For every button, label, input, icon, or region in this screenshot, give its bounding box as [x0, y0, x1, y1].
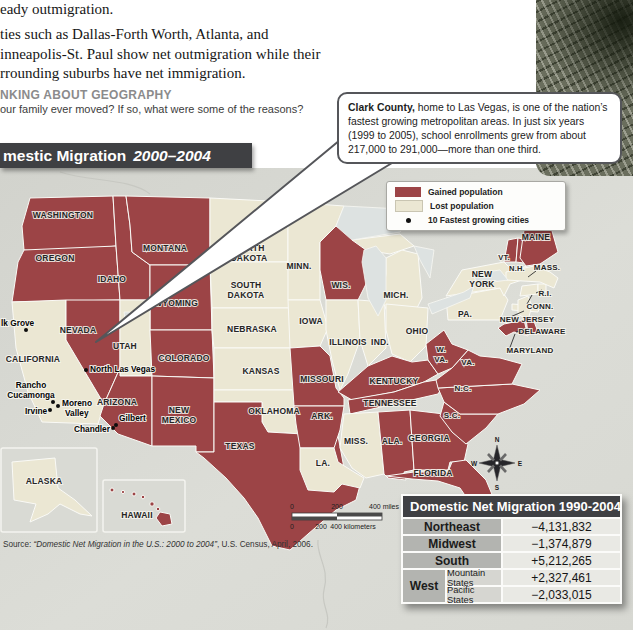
label-MI: MICH.	[383, 290, 408, 300]
lost-swatch	[395, 200, 423, 212]
city-label-chandler: Chandler	[74, 424, 111, 434]
label-TX: TEXAS	[225, 441, 254, 451]
hawaii-inset-box	[103, 480, 185, 532]
table-value-mountain-states: +2,327,461	[503, 570, 620, 585]
label-HI: HAWAII	[121, 510, 152, 520]
state-WA	[22, 196, 116, 252]
state-NC	[438, 384, 540, 414]
label-ME: MAINE	[522, 232, 551, 242]
state-MT	[126, 196, 210, 265]
table-region-south: South	[403, 553, 501, 568]
label-WI: WIS.	[331, 280, 350, 290]
label-NV: NEVADA	[60, 325, 96, 335]
legend-cities-label: 10 Fastest growing cities	[428, 215, 529, 225]
legend-lost-label: Lost population	[430, 201, 494, 211]
legend-cities-row: 10 Fastest growing cities	[395, 215, 557, 225]
label-AL: ALA.	[382, 436, 403, 446]
map-title: mestic Migration	[3, 147, 126, 164]
label-OK: OKLAHOMA	[248, 406, 300, 416]
label-MO: MISSOURI	[300, 374, 344, 384]
label-OH: OHIO	[406, 326, 429, 336]
state-HI	[132, 492, 136, 496]
city-label-north-las-vegas: North Las Vegas	[90, 364, 155, 374]
state-HI	[141, 495, 145, 499]
river-line	[318, 540, 328, 628]
table-value-midwest: −1,374,879	[503, 536, 620, 551]
compass-letter-n: N	[495, 436, 500, 443]
scale-km-label: 0	[290, 523, 294, 530]
label-IA: IOWA	[299, 316, 322, 326]
label-SC: S.C.	[444, 411, 460, 420]
city-dot-chandler	[111, 426, 115, 430]
city-dot-north-las-vegas	[84, 368, 88, 372]
state-IN	[358, 300, 386, 366]
table-sub-pacific-states: Pacific States	[447, 587, 501, 602]
label-GA: GEORGIA	[408, 433, 450, 443]
table-value-south: +5,212,265	[503, 553, 620, 568]
compass-letter-e: E	[518, 460, 523, 467]
city-label-moreno-valley: Valley	[65, 408, 89, 418]
net-migration-table: Domestic Net Migration 1990-2004 Northea…	[401, 494, 622, 604]
map-legend: Gained population Lost population 10 Fas…	[386, 181, 566, 231]
label-VA: VA.	[461, 358, 474, 367]
label-NC: N.C.	[455, 384, 472, 393]
city-dot-elk-grove	[24, 328, 28, 332]
source-title: “Domestic Net Migration in the U.S.: 200…	[34, 540, 217, 549]
label-ID: IDAHO	[98, 274, 127, 284]
label-UT: UTAH	[113, 341, 137, 351]
table-title: Domestic Net Migration 1990-2004	[403, 496, 620, 517]
label-WV: W.	[436, 345, 446, 354]
label-MN: MINN.	[286, 261, 311, 271]
label-PA: PA.	[458, 309, 472, 319]
table-region-northeast: Northeast	[403, 519, 501, 534]
label-NJ: NEW JERSEY	[500, 315, 555, 324]
city-dot-rancho-cucamonga	[51, 400, 55, 404]
table-region-midwest: Midwest	[403, 536, 501, 551]
city-label-gilbert: Gilbert	[119, 413, 146, 423]
gained-swatch	[395, 187, 421, 197]
source-prefix: Source:	[3, 540, 34, 549]
city-dot-gilbert	[114, 423, 118, 427]
label-AR: ARK.	[311, 411, 333, 421]
map-title-years: 2000–2004	[133, 147, 211, 164]
label-SD: DAKOTA	[228, 290, 265, 300]
label-NM: MEXICO	[162, 415, 197, 425]
table-body: Northeast−4,131,832Midwest−1,374,879Sout…	[403, 517, 620, 602]
state-HI	[121, 490, 124, 493]
label-SD: SOUTH	[231, 280, 262, 290]
label-MS: MISS.	[344, 436, 368, 446]
scale-miles-label: 400 miles	[369, 503, 399, 510]
label-OR: OREGON	[36, 253, 75, 263]
callout-lead: Clark County,	[348, 102, 415, 113]
city-dot-icon	[406, 218, 411, 223]
label-CT: CONN.	[527, 302, 554, 311]
label-CO: COLORADO	[158, 353, 209, 363]
city-dot-irvine	[48, 408, 52, 412]
scale-miles-label: 200	[331, 503, 343, 510]
label-MA: MASS.	[534, 263, 560, 272]
river-line	[60, 172, 150, 194]
city-label-irvine: Irvine	[25, 406, 48, 416]
label-NH: N.H.	[509, 264, 525, 273]
legend-gained-row: Gained population	[395, 187, 557, 197]
map-source-note: Source: “Domestic Net Migration in the U…	[3, 540, 313, 549]
state-CT	[520, 284, 538, 296]
textbook-page: eady outmigration. ties such as Dallas-F…	[0, 0, 633, 630]
label-WV: VA.	[434, 355, 447, 364]
label-MT: MONTANA	[143, 243, 187, 253]
city-label-rancho-cucamonga: Cucamonga	[7, 390, 55, 400]
city-label-elk-grove: lk Grove	[1, 318, 35, 328]
table-value-pacific-states: −2,033,015	[503, 587, 620, 602]
label-DE: DELAWARE	[519, 327, 566, 336]
city-dot-moreno-valley	[56, 404, 60, 408]
legend-lost-row: Lost population	[395, 200, 557, 212]
label-CA: CALIFORNIA	[6, 354, 60, 364]
label-NM: NEW	[169, 405, 190, 415]
map-title-bar: mestic Migration2000–2004	[0, 143, 252, 168]
table-value-northeast: −4,131,832	[503, 519, 620, 534]
compass-letter-s: S	[495, 484, 500, 491]
compass-center	[495, 461, 499, 465]
scale-km-label: 200	[315, 523, 327, 530]
source-suffix: , U.S. Census, April, 2006.	[217, 540, 313, 549]
label-TN: TENNESSEE	[363, 398, 416, 408]
